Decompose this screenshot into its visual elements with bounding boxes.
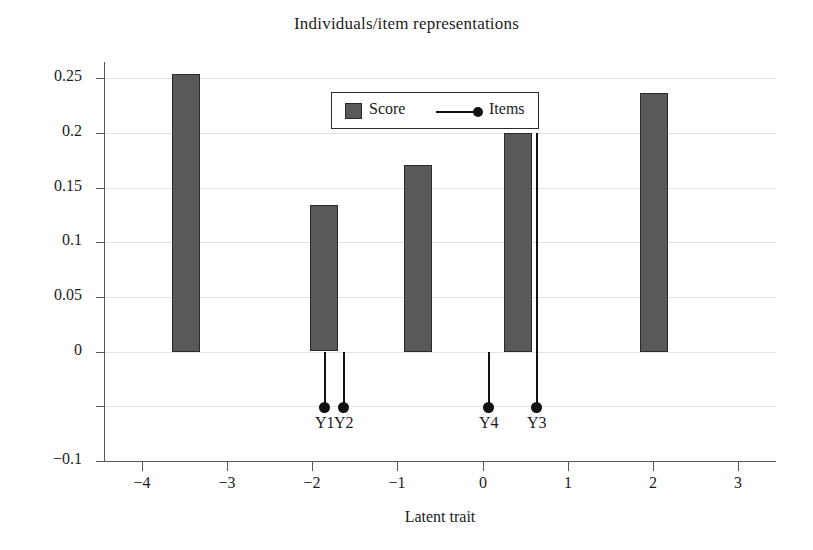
x-tick-mark xyxy=(738,462,739,471)
legend-items-line-icon xyxy=(436,111,478,113)
item-marker-dot xyxy=(483,402,494,413)
item-marker-dot xyxy=(319,402,330,413)
bar xyxy=(504,133,532,352)
gridline xyxy=(104,242,776,243)
x-tick-mark xyxy=(397,462,398,471)
bar xyxy=(404,165,432,352)
y-tick-label: 0.1 xyxy=(22,231,82,249)
x-axis-line xyxy=(104,461,776,462)
x-tick-label: −2 xyxy=(292,474,332,492)
x-tick-mark xyxy=(653,462,654,471)
x-tick-label: 2 xyxy=(633,474,673,492)
gridline xyxy=(104,297,776,298)
gridline xyxy=(104,352,776,353)
bar xyxy=(310,205,338,351)
chart-legend: Score Items xyxy=(331,92,539,129)
y-tick-mark xyxy=(96,188,105,189)
legend-score-label: Score xyxy=(369,100,405,118)
x-tick-mark xyxy=(142,462,143,471)
item-stem xyxy=(324,352,326,408)
chart-title: Individuals/item representations xyxy=(0,14,813,34)
x-tick-mark xyxy=(227,462,228,471)
y-tick-mark xyxy=(96,352,105,353)
x-tick-mark xyxy=(312,462,313,471)
x-axis-label: Latent trait xyxy=(104,508,776,526)
item-stem xyxy=(536,133,538,407)
item-stem xyxy=(343,352,345,408)
gridline xyxy=(104,406,776,407)
y-axis-line xyxy=(104,62,105,462)
x-tick-label: −3 xyxy=(207,474,247,492)
x-tick-label: 0 xyxy=(463,474,503,492)
item-label: Y2 xyxy=(314,414,374,432)
y-tick-label: 0.2 xyxy=(22,122,82,140)
y-tick-label: 0 xyxy=(22,341,82,359)
legend-score-swatch-icon xyxy=(345,103,362,119)
bar xyxy=(640,93,668,352)
chart-figure: Individuals/item representations 0.250.2… xyxy=(0,0,813,550)
x-tick-label: 1 xyxy=(548,474,588,492)
y-tick-label: 0.15 xyxy=(22,177,82,195)
y-tick-mark xyxy=(96,78,105,79)
item-label: Y3 xyxy=(507,414,567,432)
y-tick-mark xyxy=(96,242,105,243)
gridline xyxy=(104,78,776,79)
x-tick-label: −4 xyxy=(122,474,162,492)
y-tick-label: −0.1 xyxy=(22,450,82,468)
x-tick-label: 3 xyxy=(718,474,758,492)
x-tick-mark xyxy=(568,462,569,471)
legend-items-dot-icon xyxy=(473,107,483,117)
item-marker-dot xyxy=(338,402,349,413)
gridline xyxy=(104,188,776,189)
item-stem xyxy=(488,352,490,408)
x-tick-label: −1 xyxy=(377,474,417,492)
y-tick-label: 0.25 xyxy=(22,67,82,85)
bar xyxy=(172,74,200,352)
y-tick-mark xyxy=(96,406,105,407)
y-tick-label: 0.05 xyxy=(22,286,82,304)
y-tick-mark xyxy=(96,461,105,462)
gridline xyxy=(104,133,776,134)
y-tick-mark xyxy=(96,297,105,298)
x-tick-mark xyxy=(483,462,484,471)
legend-items-label: Items xyxy=(489,100,525,118)
y-tick-mark xyxy=(96,133,105,134)
item-marker-dot xyxy=(531,402,542,413)
